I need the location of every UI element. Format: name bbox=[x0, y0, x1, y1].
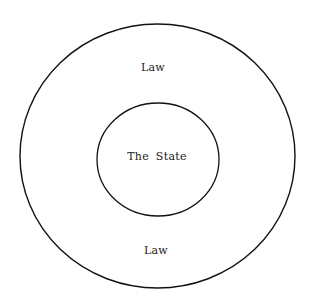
outer-label-bottom: Law bbox=[144, 244, 168, 257]
outer-label-top: Law bbox=[141, 61, 165, 74]
inner-label: The State bbox=[127, 150, 187, 163]
nested-circles-diagram: Law The State Law bbox=[0, 0, 312, 305]
